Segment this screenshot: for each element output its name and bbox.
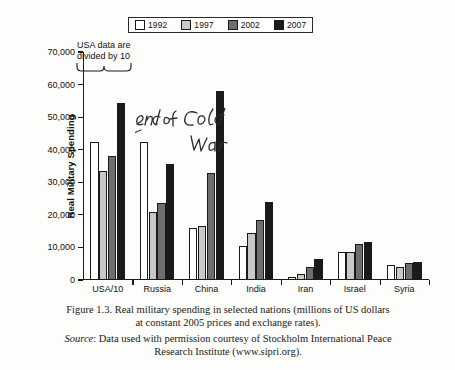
legend-label-1992: 1992	[148, 21, 167, 30]
bar-india-2007[interactable]	[265, 202, 273, 280]
caption-line-1: Figure 1.3. Real military spending in se…	[24, 303, 432, 316]
x-label-china: China	[195, 285, 219, 294]
bar-russia-1997[interactable]	[149, 212, 157, 280]
bar-israel-1997[interactable]	[346, 252, 354, 280]
bar-usa-10-1992[interactable]	[90, 142, 98, 280]
bar-usa-10-2007[interactable]	[117, 103, 125, 281]
x-label-iran: Iran	[298, 285, 314, 294]
bar-iran-1992[interactable]	[288, 277, 296, 280]
y-tick-label-60000: 60,000	[47, 80, 75, 89]
bar-syria-2002[interactable]	[405, 263, 413, 280]
bar-iran-2002[interactable]	[306, 267, 314, 280]
legend-swatch-1997	[181, 20, 191, 30]
y-tick-50000	[78, 117, 83, 118]
bar-group-iran	[288, 52, 323, 280]
x-tick-1	[182, 280, 183, 285]
bar-israel-2002[interactable]	[355, 244, 363, 280]
x-tick-3	[281, 280, 282, 285]
legend-swatch-1992	[135, 20, 145, 30]
bar-group-israel	[338, 52, 373, 280]
bar-syria-1992[interactable]	[387, 265, 395, 280]
x-tick-2	[231, 280, 232, 285]
figure-1-3: 1992 1997 2002 2007 Real Military Spendi…	[0, 0, 455, 370]
legend-item-1997[interactable]: 1997	[181, 20, 213, 30]
legend-item-2007[interactable]: 2007	[274, 20, 306, 30]
source-line-1: Source: Data used with permission courte…	[24, 332, 432, 345]
bar-china-1992[interactable]	[189, 228, 197, 280]
y-tick-label-10000: 10,000	[47, 243, 75, 252]
x-tick-4	[330, 280, 331, 285]
x-label-usa-10: USA/10	[92, 285, 123, 294]
bar-group-usa-10	[90, 52, 125, 280]
y-tick-10000	[78, 247, 83, 248]
y-tick-label-30000: 30,000	[47, 178, 75, 187]
y-tick-label-70000: 70,000	[47, 48, 75, 57]
legend-swatch-2007	[274, 20, 284, 30]
bar-russia-2002[interactable]	[157, 203, 165, 280]
bar-israel-2007[interactable]	[364, 242, 372, 280]
chart-legend: 1992 1997 2002 2007	[128, 17, 313, 33]
bar-usa-10-1997[interactable]	[99, 171, 107, 280]
x-label-india: India	[246, 285, 266, 294]
x-label-israel: Israel	[344, 285, 366, 294]
bar-china-2002[interactable]	[207, 173, 215, 280]
annotation-usa-line2: divided by 10	[77, 51, 131, 62]
y-tick-20000	[78, 214, 83, 215]
y-axis-line	[83, 52, 84, 280]
bar-india-2002[interactable]	[256, 220, 264, 280]
x-label-syria: Syria	[394, 285, 415, 294]
bar-israel-1992[interactable]	[338, 252, 346, 280]
source-line-2: Research Institute (www.sipri.org).	[24, 345, 432, 358]
figure-source: Source: Data used with permission courte…	[24, 332, 432, 358]
annotation-usa-divided: USA data are divided by 10	[77, 40, 131, 62]
y-tick-label-20000: 20,000	[47, 210, 75, 219]
legend-item-1992[interactable]: 1992	[135, 20, 167, 30]
y-tick-label-50000: 50,000	[47, 113, 75, 122]
bar-india-1997[interactable]	[247, 233, 255, 280]
y-tick-label-40000: 40,000	[47, 145, 75, 154]
bar-usa-10-2002[interactable]	[108, 156, 116, 280]
legend-label-2007: 2007	[287, 21, 306, 30]
bar-china-1997[interactable]	[198, 226, 206, 280]
bar-group-syria	[387, 52, 422, 280]
bar-group-india	[239, 52, 274, 280]
figure-caption: Figure 1.3. Real military spending in se…	[24, 303, 432, 329]
source-line-1-text: : Data used with permission courtesy of …	[93, 333, 391, 344]
x-tick-0	[132, 280, 133, 285]
y-tick-30000	[78, 182, 83, 183]
legend-swatch-2002	[228, 20, 238, 30]
source-label: Source	[64, 333, 93, 344]
bar-iran-1997[interactable]	[297, 274, 305, 281]
x-tick-6	[429, 280, 430, 285]
y-tick-0	[78, 279, 83, 280]
legend-item-2002[interactable]: 2002	[228, 20, 260, 30]
x-tick-5	[380, 280, 381, 285]
legend-label-2002: 2002	[241, 21, 260, 30]
annotation-usa-line1: USA data are	[77, 40, 131, 51]
bar-iran-2007[interactable]	[314, 259, 322, 280]
y-tick-60000	[78, 84, 83, 85]
bar-syria-1997[interactable]	[396, 267, 404, 280]
usa-brace-icon	[76, 62, 132, 74]
x-label-russia: Russia	[143, 285, 171, 294]
annotation-end-of-cold-war	[135, 108, 243, 170]
y-axis-title-text: Real Military Spending	[65, 114, 76, 218]
bar-syria-2007[interactable]	[413, 262, 421, 280]
caption-line-2: at constant 2005 prices and exchange rat…	[24, 316, 432, 329]
bar-russia-2007[interactable]	[166, 164, 174, 280]
legend-label-1997: 1997	[194, 21, 213, 30]
bar-india-1992[interactable]	[239, 246, 247, 280]
y-tick-label-0: 0	[70, 276, 75, 285]
y-tick-40000	[78, 149, 83, 150]
